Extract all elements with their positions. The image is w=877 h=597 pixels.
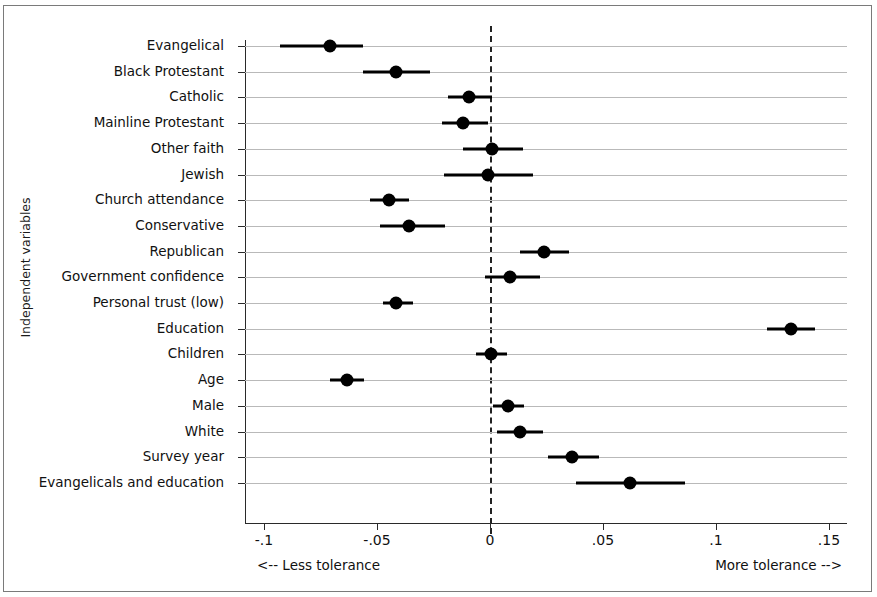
category-label: Age	[0, 373, 232, 387]
gridline	[245, 226, 847, 227]
x-axis-tick-label: .05	[592, 532, 614, 548]
gridline	[245, 97, 847, 98]
estimate-point	[382, 194, 395, 207]
y-axis-tick	[238, 226, 245, 227]
category-label: Republican	[0, 245, 232, 259]
category-label: Children	[0, 348, 232, 362]
y-axis-tick	[238, 72, 245, 73]
gridline	[245, 200, 847, 201]
x-axis-tick	[377, 523, 378, 530]
y-axis-tick	[238, 123, 245, 124]
x-axis-tick-label: -.1	[255, 532, 273, 548]
y-axis-tick	[238, 406, 245, 407]
estimate-point	[502, 399, 515, 412]
estimate-point	[514, 425, 527, 438]
category-label: Jewish	[0, 168, 232, 182]
gridline	[245, 277, 847, 278]
gridline	[245, 406, 847, 407]
x-axis-tick-label: .15	[818, 532, 840, 548]
x-axis-tick	[829, 523, 830, 530]
gridline	[245, 303, 847, 304]
category-label: Conservative	[0, 219, 232, 233]
more-tolerance-annotation: More tolerance -->	[715, 557, 842, 573]
gridline	[245, 123, 847, 124]
category-label: Other faith	[0, 142, 232, 156]
gridline	[245, 149, 847, 150]
gridline	[245, 72, 847, 73]
category-label: Catholic	[0, 91, 232, 105]
y-axis-tick	[238, 329, 245, 330]
estimate-point	[323, 40, 336, 53]
y-axis-tick	[238, 149, 245, 150]
category-label: Survey year	[0, 450, 232, 464]
category-label: Evangelicals and education	[0, 476, 232, 490]
category-label: White	[0, 425, 232, 439]
y-axis-tick	[238, 432, 245, 433]
estimate-point	[481, 168, 494, 181]
estimate-point	[504, 271, 517, 284]
gridline	[245, 432, 847, 433]
gridline	[245, 175, 847, 176]
estimate-point	[403, 219, 416, 232]
estimate-point	[486, 142, 499, 155]
x-axis-tick-label: -.05	[363, 532, 390, 548]
confidence-interval-bar	[280, 45, 363, 48]
estimate-point	[623, 476, 636, 489]
plot-area: EvangelicalBlack ProtestantCatholicMainl…	[0, 0, 877, 597]
y-axis-tick	[238, 200, 245, 201]
y-axis-tick	[238, 277, 245, 278]
estimate-point	[484, 348, 497, 361]
gridline	[245, 329, 847, 330]
estimate-point	[456, 117, 469, 130]
y-axis-tick	[238, 354, 245, 355]
gridline	[245, 354, 847, 355]
x-axis-tick	[603, 523, 604, 530]
y-axis-tick	[238, 303, 245, 304]
gridline	[245, 457, 847, 458]
category-label: Education	[0, 322, 232, 336]
estimate-point	[389, 297, 402, 310]
x-axis-tick	[264, 523, 265, 530]
category-label: Male	[0, 399, 232, 413]
y-axis-spine	[245, 40, 246, 523]
estimate-point	[340, 374, 353, 387]
y-axis-tick	[238, 46, 245, 47]
x-axis-tick-label: 0	[486, 532, 495, 548]
estimate-point	[785, 322, 798, 335]
x-axis-tick	[716, 523, 717, 530]
gridline	[245, 483, 847, 484]
x-axis-spine	[245, 523, 847, 524]
estimate-point	[389, 65, 402, 78]
category-label: Government confidence	[0, 271, 232, 285]
estimate-point	[538, 245, 551, 258]
y-axis-tick	[238, 97, 245, 98]
y-axis-tick	[238, 483, 245, 484]
y-axis-tick	[238, 175, 245, 176]
estimate-point	[462, 91, 475, 104]
y-axis-tick	[238, 252, 245, 253]
category-label: Personal trust (low)	[0, 296, 232, 310]
category-label: Evangelical	[0, 39, 232, 53]
category-label: Mainline Protestant	[0, 116, 232, 130]
figure-root: Independent variables EvangelicalBlack P…	[0, 0, 877, 597]
x-axis-tick	[490, 523, 491, 530]
x-axis-tick-label: .1	[709, 532, 722, 548]
category-label: Church attendance	[0, 193, 232, 207]
estimate-point	[566, 451, 579, 464]
less-tolerance-annotation: <-- Less tolerance	[257, 557, 380, 573]
y-axis-tick	[238, 457, 245, 458]
category-label: Black Protestant	[0, 65, 232, 79]
y-axis-tick	[238, 380, 245, 381]
